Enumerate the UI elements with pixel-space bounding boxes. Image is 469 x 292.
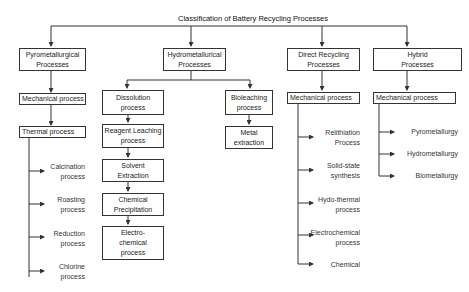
- leaf-reduction: Reduction process: [45, 229, 85, 249]
- solvent-extraction-box: Solvent Extraction: [102, 159, 164, 182]
- leaf-chemical: Chemical: [310, 260, 360, 270]
- leaf-hydrometallurgy: Hydrometallurgy: [396, 149, 458, 159]
- electrochemical-box: Electro- chemical process: [102, 226, 164, 260]
- leaf-electrochemical: Electrochemical process: [300, 228, 360, 248]
- diagram-title: Classification of Battery Recycling Proc…: [173, 14, 333, 24]
- bioleaching-box: Bioleaching process: [225, 90, 273, 115]
- pyro-mechanical-box: Mechanical process: [19, 93, 86, 105]
- leaf-chlorine: Chlorine process: [45, 262, 85, 282]
- leaf-calcination: Calcination process: [45, 162, 85, 182]
- hybrid-mechanical-box: Mechanical process: [373, 92, 456, 104]
- leaf-hydrothermal: Hydo-thermal process: [305, 195, 360, 215]
- leaf-relithiation: Relithiation Process: [310, 128, 360, 148]
- metal-extraction-box: Metal extraction: [225, 126, 273, 149]
- chemical-precipitation-box: Chemical Precipitation: [102, 193, 164, 216]
- recycling-classification-diagram: Classification of Battery Recycling Proc…: [0, 0, 469, 292]
- leaf-biometallurgy: Biometallurgy: [396, 171, 458, 181]
- leaf-roasting: Roasting process: [45, 195, 85, 215]
- reagent-leaching-box: Reagent Leaching process: [102, 124, 164, 148]
- hybrid-box: Hybrid Processes: [373, 48, 462, 71]
- hydrometallurgical-box: Hydrometallurical Processes: [163, 48, 226, 71]
- dissolution-box: Dissolution process: [102, 90, 164, 115]
- direct-mechanical-box: Mechanical process: [287, 92, 360, 104]
- pyro-thermal-box: Thermal process: [19, 126, 86, 138]
- pyrometallurgical-box: Pyrometallurgical Processes: [19, 48, 86, 71]
- leaf-pyrometallurgy: Pyrometallurgy: [396, 127, 458, 137]
- leaf-solid-state: Solid-state synthesis: [310, 161, 360, 181]
- direct-recycling-box: Direct Recycling Processes: [287, 48, 360, 71]
